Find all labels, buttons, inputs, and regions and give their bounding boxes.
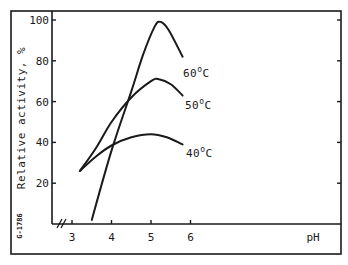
figure-frame: [11, 11, 341, 254]
x-tick-label: 4: [108, 231, 115, 244]
series-line-40c: [80, 134, 183, 171]
y-tick-label: 80: [36, 55, 49, 68]
plot-axes: [52, 11, 341, 228]
series-label-40c: 40oC: [186, 145, 213, 160]
x-tick-label: 3: [69, 231, 76, 244]
chart-canvas: 20406080100 3456 40oC50oC60oC Relative a…: [0, 0, 348, 265]
series-label-60c: 60oC: [183, 65, 210, 80]
y-tick-label: 40: [36, 136, 49, 149]
series-labels: 40oC50oC60oC: [183, 65, 213, 160]
x-tick-label: 6: [187, 231, 194, 244]
figure-id-label: G-1786: [16, 213, 24, 238]
y-axis-title: Relative activity, %: [15, 47, 28, 189]
series-lines: [80, 22, 183, 220]
series-label-50c: 50oC: [185, 97, 212, 112]
y-tick-label: 100: [29, 14, 49, 27]
y-tick-label: 60: [36, 96, 49, 109]
x-axis-title: pH: [306, 231, 319, 244]
x-tick-label: 5: [148, 231, 155, 244]
y-tick-label: 20: [36, 177, 49, 190]
series-line-60c: [92, 22, 183, 220]
chart-figure: 20406080100 3456 40oC50oC60oC Relative a…: [0, 0, 348, 265]
